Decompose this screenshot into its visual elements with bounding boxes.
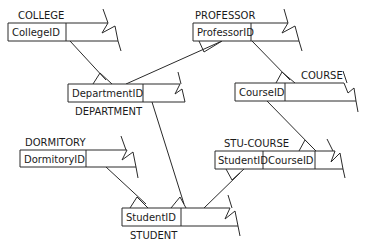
break-mark — [284, 9, 288, 23]
break-mark — [178, 72, 181, 84]
key-field-studentid: StudentID — [126, 212, 176, 223]
key-field-collegeid: CollegeID — [12, 27, 60, 38]
entity-name-student: STUDENT — [130, 230, 178, 241]
entity-dormitory: DORMITORY DormitoryID — [20, 136, 138, 178]
break-mark — [103, 9, 108, 23]
edge-professor-department — [126, 41, 222, 84]
key-field-courseid: CourseID — [268, 155, 314, 166]
break-mark — [343, 71, 347, 83]
crowsfoot-department-college — [93, 73, 112, 84]
key-field-dormitoryid: DormitoryID — [24, 154, 85, 165]
key-field-departmentid: DepartmentID — [72, 88, 143, 99]
crowsfoot-course-professor — [276, 72, 295, 83]
break-mark — [299, 41, 302, 51]
crowsfoot-student-dormitory — [130, 197, 148, 208]
break-mark — [228, 195, 232, 208]
break-mark — [343, 169, 345, 178]
edge-dormitory-student — [106, 167, 146, 204]
break-mark — [121, 136, 126, 150]
break-mark — [327, 139, 333, 151]
break-mark — [136, 167, 138, 178]
edge-department-student — [152, 102, 184, 204]
key-field-courseid: CourseID — [239, 87, 285, 98]
entity-college: COLLEGE CollegeID — [8, 9, 121, 51]
entity-name-stu-course: STU-COURSE — [224, 138, 289, 149]
relationship-lines — [70, 41, 316, 208]
crowsfoot-stucourse-course — [299, 140, 316, 151]
entity-stu-course: STU-COURSE StudentID CourseID — [215, 138, 345, 178]
entity-professor: PROFESSOR ProfessorID — [193, 9, 302, 51]
entity-name-dormitory: DORMITORY — [25, 137, 86, 148]
er-diagram: COLLEGE CollegeID PROFESSOR ProfessorID … — [0, 0, 367, 251]
entity-name-department: DEPARTMENT — [75, 106, 143, 117]
entity-course: COURSE CourseID — [235, 70, 358, 112]
break-mark — [356, 101, 358, 112]
entity-student: StudentID STUDENT — [122, 195, 240, 241]
entity-name-college: COLLEGE — [18, 10, 64, 21]
entity-name-course: COURSE — [301, 70, 343, 81]
break-mark — [238, 226, 240, 236]
key-field-professorid: ProfessorID — [197, 27, 254, 38]
break-mark — [118, 41, 121, 51]
entity-department: DepartmentID DEPARTMENT — [68, 72, 185, 117]
key-field-studentid: StudentID — [218, 155, 268, 166]
entity-name-professor: PROFESSOR — [195, 10, 255, 21]
